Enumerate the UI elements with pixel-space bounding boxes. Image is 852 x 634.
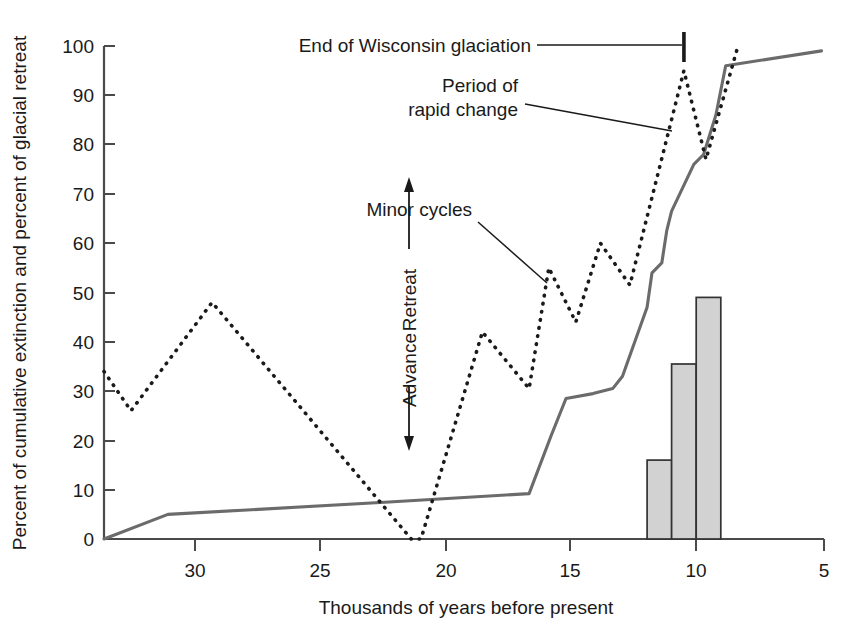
annotation-rapid-change-line1: Period of — [442, 75, 519, 96]
y-tick-label-40: 40 — [73, 332, 94, 353]
y-tick-label-80: 80 — [73, 134, 94, 155]
y-tick-label-0: 0 — [83, 529, 94, 550]
annotation-minor-cycles: Minor cycles — [366, 199, 472, 220]
x-axis-tick-labels: 30 25 20 15 10 5 — [184, 560, 829, 581]
chart-figure: 100 90 80 70 60 50 40 30 20 10 0 30 25 2… — [0, 0, 852, 634]
end-glaciation-marker — [537, 32, 684, 62]
annotation-end-of-glaciation: End of Wisconsin glaciation — [299, 35, 531, 56]
y-axis-tick-labels: 100 90 80 70 60 50 40 30 20 10 0 — [62, 36, 94, 550]
x-tick-label-20: 20 — [435, 560, 456, 581]
x-tick-label-30: 30 — [184, 560, 205, 581]
y-axis-title: Percent of cumulative extinction and per… — [9, 35, 30, 550]
y-tick-label-20: 20 — [73, 431, 94, 452]
rapid-change-leader — [525, 104, 672, 131]
x-axis-ticks — [195, 539, 824, 551]
y-tick-label-100: 100 — [62, 36, 94, 57]
bar-9k — [696, 297, 721, 539]
x-axis-title: Thousands of years before present — [319, 597, 614, 618]
x-tick-label-15: 15 — [559, 560, 580, 581]
extinction-bars — [647, 297, 721, 539]
label-advance: Advance — [399, 333, 420, 407]
label-retreat: Retreat — [399, 268, 420, 331]
y-axis-ticks — [104, 46, 115, 490]
y-tick-label-90: 90 — [73, 85, 94, 106]
y-tick-label-60: 60 — [73, 233, 94, 254]
glacial-retreat-extinction-chart: 100 90 80 70 60 50 40 30 20 10 0 30 25 2… — [0, 0, 852, 634]
y-tick-label-50: 50 — [73, 283, 94, 304]
annotation-rapid-change-line2: rapid change — [408, 99, 518, 120]
bar-10k — [672, 364, 697, 539]
x-tick-label-10: 10 — [685, 560, 706, 581]
x-tick-label-5: 5 — [819, 560, 830, 581]
bar-11k — [647, 460, 672, 539]
y-tick-label-30: 30 — [73, 381, 94, 402]
y-tick-label-70: 70 — [73, 184, 94, 205]
x-tick-label-25: 25 — [309, 560, 330, 581]
minor-cycles-leader — [478, 222, 547, 283]
y-tick-label-10: 10 — [73, 480, 94, 501]
